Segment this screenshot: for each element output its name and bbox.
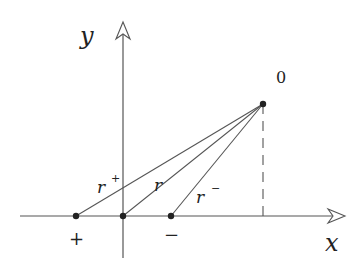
- point-minus: [168, 213, 174, 219]
- point-apex: [260, 101, 266, 107]
- r-plus-sup: +: [111, 172, 120, 185]
- point-origin: [120, 213, 126, 219]
- segment-r: [123, 104, 263, 216]
- r-minus-label: r: [196, 187, 205, 207]
- r-label: r: [154, 175, 163, 195]
- r-minus-sup: −: [211, 182, 220, 195]
- diagram-canvas: y x 0 + − r + r r −: [0, 0, 362, 265]
- y-axis-label: y: [79, 22, 94, 50]
- point-plus: [73, 213, 79, 219]
- r-plus-label: r: [97, 177, 106, 197]
- plus-label: +: [69, 228, 84, 249]
- apex-label: 0: [276, 68, 286, 87]
- minus-label: −: [164, 224, 179, 245]
- x-axis-label: x: [325, 229, 339, 257]
- segment-r-plus: [76, 104, 263, 216]
- segment-r-minus: [171, 104, 263, 216]
